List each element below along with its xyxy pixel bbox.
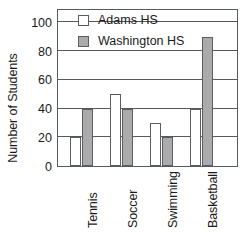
legend-item-adams-hs: Adams HS	[78, 12, 228, 29]
x-tick-label-soccer: Soccer	[127, 190, 140, 228]
gray-square-swatch	[78, 36, 89, 47]
legend-item-washington-hs: Washington HS	[78, 33, 228, 50]
x-tick-label-tennis: Tennis	[87, 192, 100, 228]
white-square-swatch	[78, 15, 89, 26]
bar-chart: Number of Students 020406080100 TennisSo…	[0, 0, 249, 233]
legend-label: Washington HS	[98, 35, 184, 48]
legend-label: Adams HS	[98, 14, 158, 27]
x-tick-label-swimming: Swimming	[167, 171, 180, 228]
x-tick-label-basketball: Basketball	[207, 171, 220, 228]
legend: Adams HSWashington HS	[78, 12, 228, 54]
